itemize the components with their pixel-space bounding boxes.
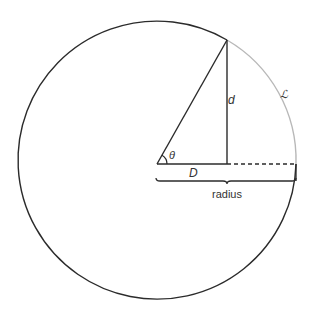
angle-label: θ [169,149,175,161]
circle-outline [18,21,296,299]
vertical-leg-label: d [228,93,235,107]
horizontal-leg-label: D [189,166,198,180]
hypotenuse-line [157,40,227,164]
circle-diagram: θ D d ℒ radius [0,0,312,321]
radius-brace [156,178,296,184]
radius-label: radius [212,188,242,200]
arc-label: ℒ [280,88,289,100]
angle-arc [162,155,167,164]
arc-length-highlight [227,40,296,164]
